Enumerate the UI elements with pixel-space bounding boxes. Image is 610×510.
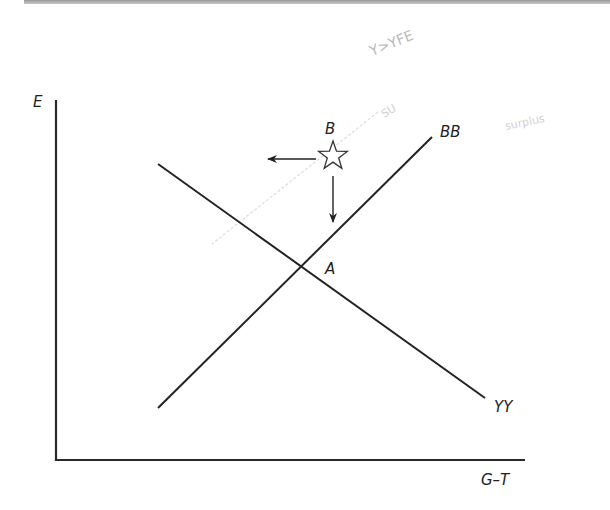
yy-curve — [158, 164, 485, 398]
point-b-label: B — [325, 120, 335, 138]
pencil-guide-line — [212, 112, 378, 244]
handwritten-surplus: surplus — [504, 112, 546, 133]
point-a-label: A — [324, 260, 335, 278]
star-icon — [319, 141, 348, 168]
y-axis-label: E — [33, 93, 43, 111]
handwritten-y-greater-yfe: Y>YFE — [366, 27, 415, 59]
bb-curve-label: BB — [440, 123, 461, 141]
equilibrium-diagram: E G–T BB YY A B Y>YFE SU surplus — [0, 0, 610, 510]
axes — [55, 100, 525, 461]
handwritten-su: SU — [379, 102, 399, 121]
yy-curve-label: YY — [494, 398, 514, 416]
x-axis-label: G–T — [481, 471, 511, 489]
